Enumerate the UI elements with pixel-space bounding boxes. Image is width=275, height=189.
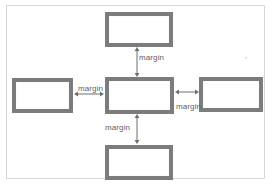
right-margin-arrow-icon bbox=[175, 88, 199, 96]
bottom-box-interior bbox=[109, 149, 169, 176]
diagram-screenshot: margin margin margin margin bbox=[0, 0, 275, 189]
right-box-interior bbox=[203, 81, 259, 108]
bottom-margin-arrow-icon bbox=[133, 114, 141, 144]
top-margin-label: margin bbox=[139, 54, 164, 62]
image-artifact-speck bbox=[245, 57, 247, 59]
bottom-margin-label: margin bbox=[105, 124, 130, 132]
diagram-canvas: margin margin margin margin bbox=[0, 0, 275, 189]
top-box bbox=[105, 12, 173, 47]
top-box-interior bbox=[109, 16, 169, 43]
left-margin-label: margin bbox=[78, 85, 103, 93]
right-box bbox=[199, 77, 263, 112]
left-box-interior bbox=[16, 82, 69, 109]
left-box bbox=[12, 78, 73, 113]
top-margin-arrow-icon bbox=[133, 47, 141, 77]
center-box bbox=[105, 77, 174, 114]
right-margin-label: margin bbox=[176, 103, 201, 111]
bottom-box bbox=[105, 145, 173, 180]
center-box-interior bbox=[109, 81, 170, 110]
